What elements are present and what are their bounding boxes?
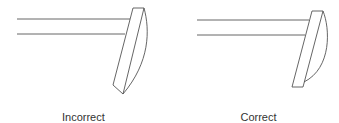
incorrect-lens-curve: [123, 8, 147, 94]
incorrect-figure: [17, 8, 147, 94]
correct-lens-body: [292, 11, 323, 87]
diagram-canvas: [0, 0, 339, 123]
correct-figure: [197, 11, 327, 87]
correct-label: Correct: [240, 111, 277, 123]
incorrect-label: Incorrect: [62, 111, 104, 123]
incorrect-lens-body: [113, 8, 144, 94]
